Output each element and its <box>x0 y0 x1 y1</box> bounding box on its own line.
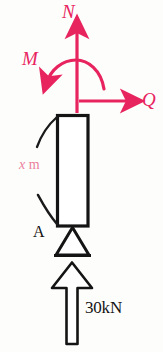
label-length-dimension: x m <box>19 158 40 172</box>
label-applied-load: 30kN <box>85 299 122 316</box>
dimension-leader-top <box>37 117 57 147</box>
dimension-leader-bottom <box>38 195 57 224</box>
pin-support-triangle <box>56 228 89 256</box>
column-member <box>58 116 89 227</box>
label-length-unit: m <box>25 157 39 172</box>
free-body-diagram: N M Q x m A 30kN <box>0 0 163 352</box>
label-normal-force: N <box>62 2 75 21</box>
label-support-point: A <box>33 224 45 240</box>
label-moment: M <box>22 49 38 68</box>
label-shear-force: Q <box>142 90 156 109</box>
